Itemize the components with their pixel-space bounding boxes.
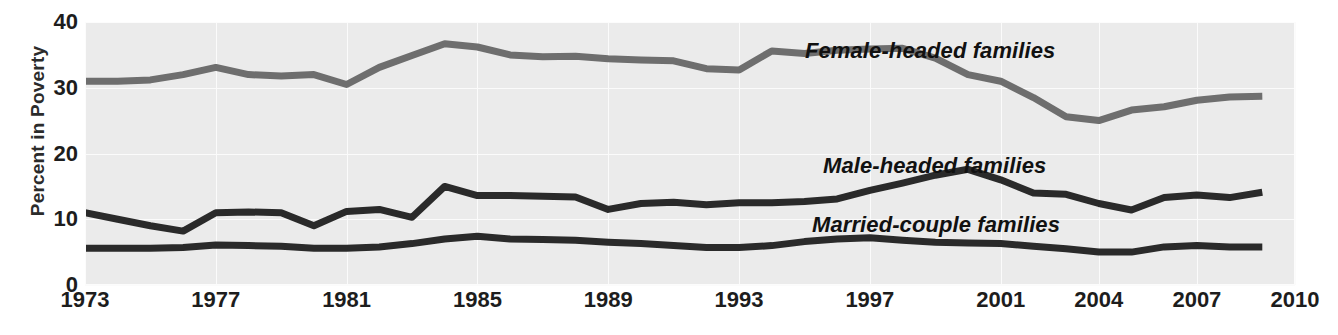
series-line-0 [85, 44, 1262, 121]
y-tick-20: 20 [32, 143, 78, 165]
series-label-1: Male-headed families [823, 153, 1046, 179]
gridline-vertical [1295, 22, 1296, 285]
plot-area [85, 22, 1295, 285]
chart-figure: Percent in Poverty 010203040 19731977198… [0, 0, 1338, 335]
series-label-2: Married-couple families [812, 212, 1060, 238]
series-line-1 [85, 169, 1262, 231]
gridline-horizontal [85, 285, 1295, 286]
y-tick-10: 10 [32, 208, 78, 230]
x-tick-1973: 1973 [30, 289, 140, 311]
x-tick-2007: 2007 [1142, 289, 1252, 311]
x-tick-1993: 1993 [684, 289, 794, 311]
x-tick-1977: 1977 [161, 289, 271, 311]
x-tick-1989: 1989 [553, 289, 663, 311]
y-tick-30: 30 [32, 77, 78, 99]
x-tick-1981: 1981 [292, 289, 402, 311]
x-tick-2001: 2001 [946, 289, 1056, 311]
series-label-0: Female-headed families [805, 38, 1055, 64]
series-line-2 [85, 236, 1262, 252]
x-tick-1997: 1997 [815, 289, 925, 311]
x-tick-1985: 1985 [422, 289, 532, 311]
y-tick-40: 40 [32, 11, 78, 33]
x-tick-2004: 2004 [1044, 289, 1154, 311]
series-lines [85, 22, 1295, 285]
x-tick-2010: 2010 [1240, 289, 1338, 311]
x-axis-tick-labels: 1973197719811985198919931997200120042007… [0, 289, 1338, 329]
y-axis-tick-labels: 010203040 [14, 0, 78, 335]
